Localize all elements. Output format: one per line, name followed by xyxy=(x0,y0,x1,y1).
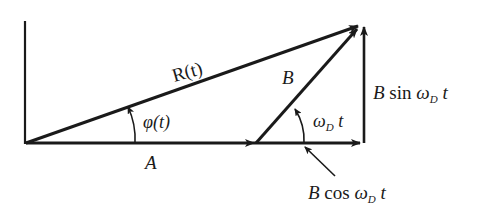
time-symbol: t xyxy=(376,182,386,203)
label-B-sin: B sin ωD t xyxy=(373,83,448,102)
omega-subscript: D xyxy=(326,121,334,133)
omega-symbol: ω xyxy=(354,182,367,203)
phasor-diagram-canvas xyxy=(0,0,496,215)
label-B: B xyxy=(282,68,294,87)
sin-text: sin xyxy=(385,82,417,103)
omega-subscript: D xyxy=(430,93,438,105)
cos-text: cos xyxy=(320,182,355,203)
pointer-B-cos xyxy=(305,147,335,176)
time-symbol: t xyxy=(334,111,344,131)
omega-subscript: D xyxy=(368,193,376,205)
label-A: A xyxy=(145,153,157,172)
label-phi: φ(t) xyxy=(143,113,170,131)
B-symbol: B xyxy=(373,82,385,103)
time-symbol: t xyxy=(438,82,448,103)
angle-arc-phi xyxy=(128,107,135,143)
omega-symbol: ω xyxy=(313,111,326,131)
angle-arc-omega xyxy=(295,109,304,143)
omega-symbol: ω xyxy=(416,82,429,103)
B-symbol: B xyxy=(308,182,320,203)
label-B-cos: B cos ωD t xyxy=(308,183,386,202)
label-omega-t: ωD t xyxy=(313,112,343,130)
